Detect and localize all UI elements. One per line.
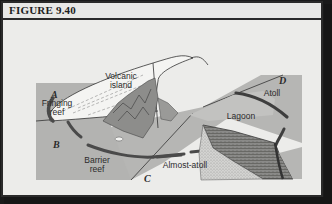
fringing-reef-label: Fringing reef	[37, 99, 77, 117]
islet	[115, 137, 123, 141]
frame-shadow-bottom	[4, 197, 332, 204]
volcanic-island-label: Volcanic island	[99, 72, 143, 90]
atoll-label: Atoll	[259, 89, 285, 98]
stage-b-label: B	[53, 139, 60, 150]
figure-frame: FIGURE 9.40	[1, 1, 323, 197]
barrier-reef-label: Barrier reef	[79, 156, 115, 174]
frame-shadow-right	[324, 4, 332, 204]
lagoon-label: Lagoon	[221, 112, 261, 121]
stage-d-label: D	[279, 75, 286, 86]
stage-c-label: C	[144, 173, 151, 184]
almost-atoll-label: Almost-atoll	[155, 161, 215, 170]
